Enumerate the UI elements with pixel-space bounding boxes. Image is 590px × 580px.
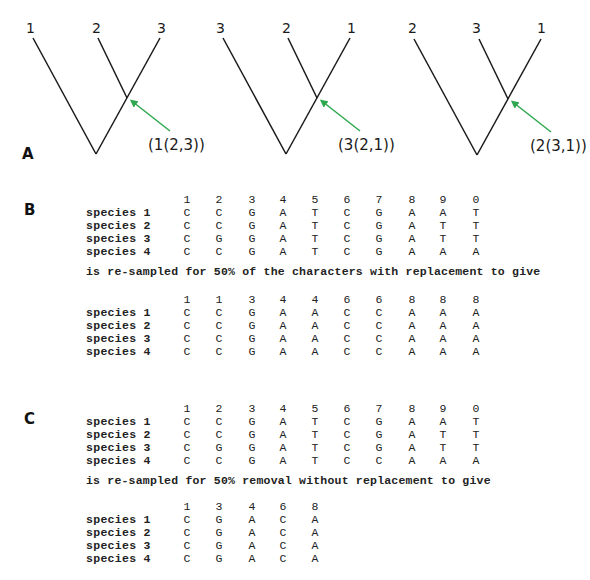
character-cell: T xyxy=(470,232,482,245)
character-cell: T xyxy=(309,232,321,245)
tree-2-tip-1: 3 xyxy=(216,20,225,36)
character-cell: T xyxy=(470,441,482,454)
character-cell: C xyxy=(181,441,193,454)
character-cell: T xyxy=(437,441,449,454)
character-cell: G xyxy=(246,345,258,358)
character-cell: A xyxy=(277,441,289,454)
character-cell: A xyxy=(470,245,482,258)
tree-2-branch-2 xyxy=(288,38,317,98)
column-header: 8 xyxy=(309,500,321,513)
character-cell: C xyxy=(213,306,225,319)
tree-1-newick: (1(2,3)) xyxy=(148,136,205,154)
character-cell: A xyxy=(406,454,418,467)
panel-b-caption: is re-sampled for 50% of the characters … xyxy=(86,265,540,278)
character-cell: A xyxy=(406,245,418,258)
character-cell: G xyxy=(246,454,258,467)
character-cell: A xyxy=(437,345,449,358)
tree-3-tip-1: 2 xyxy=(408,20,417,36)
character-cell: C xyxy=(181,345,193,358)
character-cell: C xyxy=(181,454,193,467)
column-header: 1 xyxy=(181,293,193,306)
character-cell: G xyxy=(373,206,385,219)
species-label: species 1 xyxy=(86,306,151,319)
character-cell: C xyxy=(373,454,385,467)
character-cell: C xyxy=(341,319,353,332)
column-header: 4 xyxy=(277,293,289,306)
column-header: 3 xyxy=(246,193,258,206)
character-cell: T xyxy=(437,428,449,441)
character-cell: G xyxy=(213,526,225,539)
column-header: 5 xyxy=(309,193,321,206)
character-cell: A xyxy=(470,332,482,345)
tree-2-arrow-icon xyxy=(323,102,360,131)
panel-c-caption: is re-sampled for 50% removal without re… xyxy=(86,474,491,487)
character-cell: T xyxy=(437,219,449,232)
column-header: 8 xyxy=(406,293,418,306)
character-cell: A xyxy=(406,319,418,332)
column-header: 4 xyxy=(277,402,289,415)
character-cell: A xyxy=(277,245,289,258)
character-cell: C xyxy=(341,428,353,441)
species-label: species 2 xyxy=(86,526,151,539)
column-header: 6 xyxy=(373,293,385,306)
character-cell: C xyxy=(181,219,193,232)
column-header: 8 xyxy=(470,293,482,306)
panel-c-letter: C xyxy=(24,410,35,428)
character-cell: A xyxy=(437,319,449,332)
tree-2-newick: (3(2,1)) xyxy=(338,136,395,154)
character-cell: A xyxy=(406,345,418,358)
tree-1-tip-1: 1 xyxy=(26,20,35,36)
column-header: 6 xyxy=(277,500,289,513)
column-header: 7 xyxy=(373,193,385,206)
character-cell: C xyxy=(341,332,353,345)
character-cell: C xyxy=(341,345,353,358)
column-header: 1 xyxy=(213,293,225,306)
character-cell: G xyxy=(213,539,225,552)
character-cell: C xyxy=(341,441,353,454)
species-label: species 2 xyxy=(86,428,151,441)
character-cell: G xyxy=(246,232,258,245)
tree-1-tip-3: 3 xyxy=(157,20,166,36)
character-cell: G xyxy=(373,441,385,454)
character-cell: A xyxy=(437,415,449,428)
character-cell: A xyxy=(470,454,482,467)
character-cell: C xyxy=(341,232,353,245)
species-label: species 4 xyxy=(86,552,151,565)
character-cell: A xyxy=(277,206,289,219)
column-header: 3 xyxy=(246,293,258,306)
character-cell: C xyxy=(373,332,385,345)
character-cell: A xyxy=(277,345,289,358)
character-cell: C xyxy=(373,319,385,332)
character-cell: C xyxy=(181,332,193,345)
character-cell: A xyxy=(246,526,258,539)
character-cell: G xyxy=(246,206,258,219)
column-header: 0 xyxy=(470,402,482,415)
character-cell: G xyxy=(246,441,258,454)
character-cell: C xyxy=(213,319,225,332)
character-cell: T xyxy=(309,206,321,219)
column-header: 6 xyxy=(341,293,353,306)
character-cell: A xyxy=(309,332,321,345)
character-cell: G xyxy=(373,428,385,441)
character-cell: G xyxy=(246,428,258,441)
species-label: species 1 xyxy=(86,513,151,526)
character-cell: G xyxy=(246,306,258,319)
character-cell: A xyxy=(277,415,289,428)
character-cell: A xyxy=(277,428,289,441)
character-cell: T xyxy=(470,206,482,219)
species-label: species 3 xyxy=(86,441,151,454)
character-cell: C xyxy=(213,428,225,441)
column-header: 7 xyxy=(373,402,385,415)
character-cell: A xyxy=(406,306,418,319)
character-cell: C xyxy=(277,552,289,565)
character-cell: C xyxy=(181,526,193,539)
character-cell: T xyxy=(309,219,321,232)
column-header: 3 xyxy=(213,500,225,513)
character-cell: C xyxy=(213,219,225,232)
species-label: species 1 xyxy=(86,415,151,428)
character-cell: A xyxy=(246,513,258,526)
character-cell: G xyxy=(373,219,385,232)
character-cell: C xyxy=(181,428,193,441)
species-label: species 1 xyxy=(86,206,151,219)
character-cell: A xyxy=(470,345,482,358)
